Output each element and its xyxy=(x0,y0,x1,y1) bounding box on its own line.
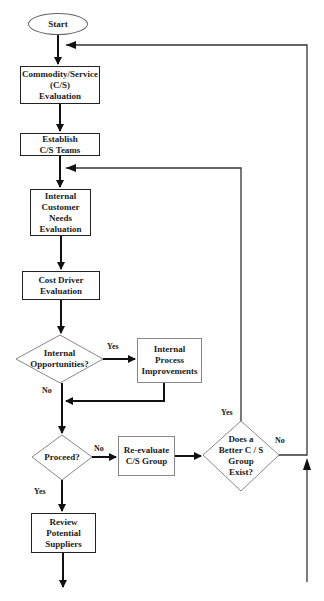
node-label-line: (C/S) xyxy=(50,80,70,91)
node-label-line: Evaluation xyxy=(40,286,82,297)
node-label-line: Evaluation xyxy=(39,91,81,102)
node-label-line: Improvements xyxy=(142,366,198,377)
node-label-line: Proceed? xyxy=(44,452,79,463)
cost-driver-node: Cost Driver Evaluation xyxy=(22,271,100,300)
reevaluate-node: Re-evaluate C/S Group xyxy=(118,436,175,476)
node-label-line: Commodity/Service xyxy=(22,69,98,80)
arrowhead-to-customer xyxy=(66,164,76,172)
arrow-process-return xyxy=(66,383,164,401)
commodity-evaluation-node: Commodity/Service (C/S) Evaluation xyxy=(20,66,100,104)
node-label-line: Internal xyxy=(154,344,186,355)
node-label-line: C/S Group xyxy=(126,456,168,467)
line-better-no-loop xyxy=(66,45,307,455)
review-suppliers-node: Review Potential Suppliers xyxy=(31,513,96,553)
node-label-line: Opportunities? xyxy=(30,359,89,370)
proceed-label: Proceed? xyxy=(32,450,92,464)
node-label-line: Evaluation xyxy=(39,224,81,235)
node-label-line: Establish xyxy=(42,134,78,145)
node-label-line: Review xyxy=(50,517,78,528)
node-label-line: Cost Driver xyxy=(38,275,83,286)
better-group-label: Does a Better C / S Group Exist? xyxy=(208,433,274,479)
node-label-line: Potential xyxy=(46,528,81,539)
edge-label-proceed-no: No xyxy=(94,444,104,453)
establish-teams-node: Establish C/S Teams xyxy=(20,133,100,156)
node-label-line: Better C / S xyxy=(219,445,264,456)
edge-label-opps-no: No xyxy=(42,386,52,395)
arrowhead-up-return xyxy=(303,458,311,470)
node-label-line: Internal xyxy=(45,191,77,202)
start-node: Start xyxy=(28,13,88,35)
node-label-line: Suppliers xyxy=(45,539,82,550)
node-label-line: Process xyxy=(155,355,184,366)
edge-label-opps-yes: Yes xyxy=(107,342,119,351)
node-label-line: Customer xyxy=(42,202,80,213)
edge-label-proceed-yes: Yes xyxy=(34,487,46,496)
start-label: Start xyxy=(48,19,68,30)
node-label-line: Internal xyxy=(44,348,76,359)
edge-label-better-yes: Yes xyxy=(221,408,233,417)
node-label-line: Needs xyxy=(49,213,72,224)
internal-opportunities-label: Internal Opportunities? xyxy=(16,345,103,373)
arrowhead-to-start xyxy=(66,41,76,49)
node-label-line: Group xyxy=(228,456,253,467)
node-label-line: Exist? xyxy=(229,467,253,478)
node-label-line: Re-evaluate xyxy=(124,445,169,456)
node-label-line: C/S Teams xyxy=(40,145,81,156)
internal-customer-needs-node: Internal Customer Needs Evaluation xyxy=(30,189,91,236)
node-label-line: Does a xyxy=(228,434,253,445)
edge-label-better-no: No xyxy=(275,436,285,445)
internal-process-node: Internal Process Improvements xyxy=(137,338,202,383)
